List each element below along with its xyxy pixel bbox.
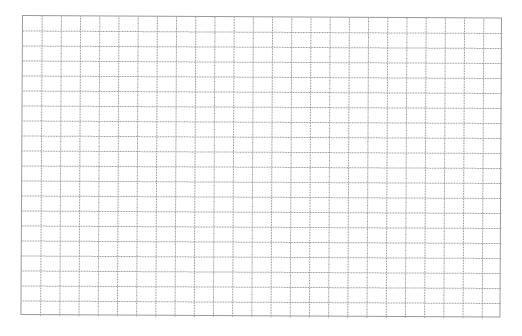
- grid-horizontal-line: [22, 241, 502, 244]
- grid-horizontal-line: [22, 286, 502, 289]
- grid-horizontal-line: [22, 226, 502, 229]
- grid-horizontal-line: [22, 181, 502, 184]
- grid-horizontal-line: [22, 211, 502, 214]
- grid-horizontal-line: [23, 61, 503, 64]
- grid-horizontal-line: [23, 46, 503, 49]
- grid-lines: [20, 15, 504, 320]
- grid-horizontal-line: [22, 121, 502, 124]
- grid-horizontal-line: [22, 301, 502, 304]
- grid-horizontal-line: [22, 136, 502, 139]
- grid-horizontal-line: [22, 196, 502, 199]
- graph-paper-grid: [20, 15, 502, 318]
- grid-horizontal-line: [23, 31, 503, 34]
- grid-horizontal-line: [22, 166, 502, 169]
- grid-horizontal-line: [23, 106, 503, 109]
- grid-horizontal-line: [22, 151, 502, 154]
- grid-horizontal-line: [22, 256, 502, 259]
- grid-horizontal-line: [22, 271, 502, 274]
- grid-horizontal-line: [23, 76, 503, 79]
- grid-horizontal-line: [23, 91, 503, 94]
